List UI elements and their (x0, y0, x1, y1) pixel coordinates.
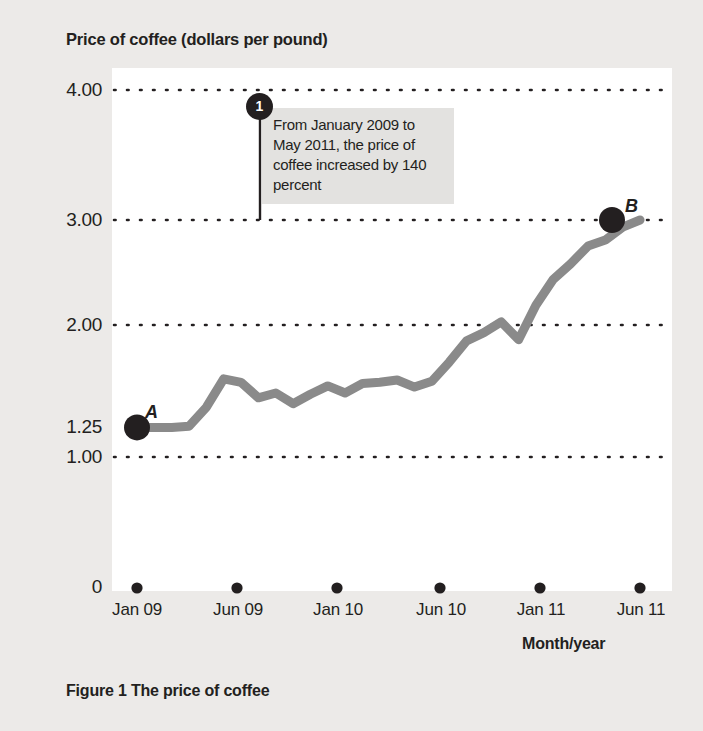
xaxis-tick-jan-10: Jan 10 (278, 600, 398, 620)
annotation-text: From January 2009 to May 2011, the price… (273, 115, 445, 195)
xaxis-label: Month/year (522, 635, 605, 653)
point-label-a: A (145, 402, 158, 423)
annotation-callout: From January 2009 to May 2011, the price… (262, 108, 454, 204)
figure-caption: Figure 1 The price of coffee (66, 682, 269, 700)
chart-title: Price of coffee (dollars per pound) (66, 30, 328, 49)
xaxis-tick-jun-11: Jun 11 (581, 600, 701, 620)
annotation-badge-1: 1 (246, 93, 273, 120)
figure-container: Price of coffee (dollars per pound) 4.0 (0, 0, 703, 731)
point-label-b: B (625, 196, 638, 217)
